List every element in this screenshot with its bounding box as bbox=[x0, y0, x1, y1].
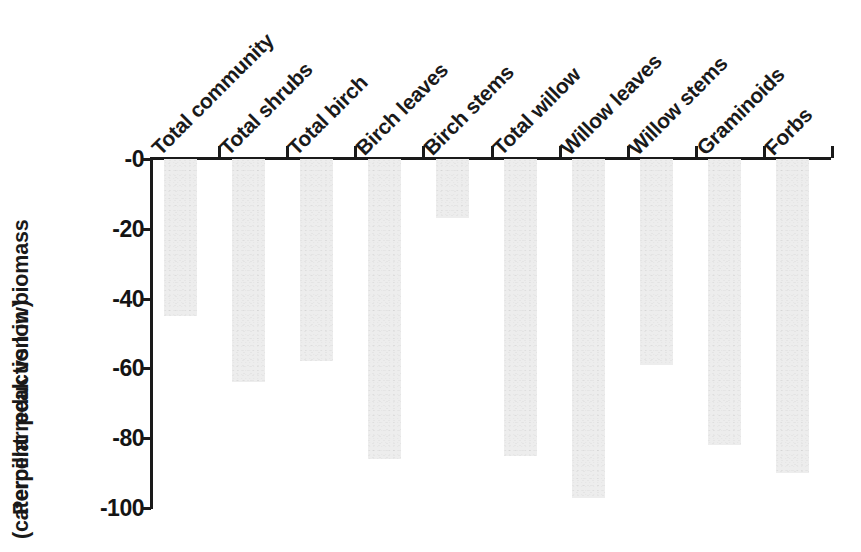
y-tick-label: -60 bbox=[80, 355, 144, 382]
chart-figure: Percent reduction in biomass (caterpilla… bbox=[0, 0, 861, 552]
bar bbox=[572, 159, 605, 498]
x-category-label: Total community bbox=[147, 29, 278, 160]
bar bbox=[640, 159, 673, 365]
bar bbox=[368, 159, 401, 459]
bar bbox=[436, 159, 469, 218]
bar bbox=[300, 159, 333, 361]
bar bbox=[504, 159, 537, 456]
bar bbox=[232, 159, 265, 382]
x-category-label: Forbs bbox=[760, 103, 817, 160]
y-tick-label: -100 bbox=[80, 495, 144, 522]
bar bbox=[708, 159, 741, 445]
x-axis-category-labels: Total communityTotal shrubsTotal birchBi… bbox=[0, 0, 861, 160]
y-tick-label: -80 bbox=[80, 425, 144, 452]
y-axis-title-line-2: (caterpillar peak vs low) bbox=[9, 300, 34, 539]
bar bbox=[164, 159, 197, 316]
y-axis-title: Percent reduction in biomass (caterpilla… bbox=[8, 155, 78, 515]
y-tick-label: -20 bbox=[80, 215, 144, 242]
plot-area bbox=[150, 159, 831, 519]
bar bbox=[776, 159, 809, 473]
y-tick-label: -40 bbox=[80, 285, 144, 312]
